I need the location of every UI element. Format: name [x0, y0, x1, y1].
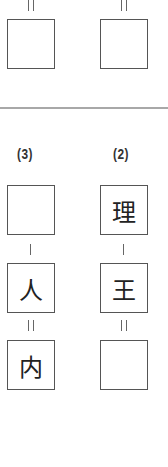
- answer-box-problem-3-top[interactable]: [7, 185, 55, 235]
- equals-sign-problem-2: [121, 320, 127, 331]
- answer-box-problem-2-bottom[interactable]: [100, 340, 148, 390]
- equals-sign-top-right: [121, 0, 127, 11]
- equals-sign-problem-3: [28, 320, 34, 331]
- equals-sign-top-left: [28, 0, 34, 11]
- problem-number-3: (3): [17, 146, 33, 162]
- answer-box-top-right[interactable]: [100, 19, 148, 69]
- problem-number-2: (2): [113, 146, 129, 162]
- kanji-box-problem-3-bottom: 内: [7, 340, 55, 390]
- answer-box-top-left[interactable]: [7, 19, 55, 69]
- kanji-box-problem-3-middle: 人: [7, 263, 55, 313]
- section-divider: [0, 107, 168, 109]
- minus-sign-problem-3: [30, 244, 31, 255]
- minus-sign-problem-2: [123, 244, 124, 255]
- kanji-box-problem-2-middle: 王: [100, 263, 148, 313]
- kanji-box-problem-2-top: 理: [100, 185, 148, 235]
